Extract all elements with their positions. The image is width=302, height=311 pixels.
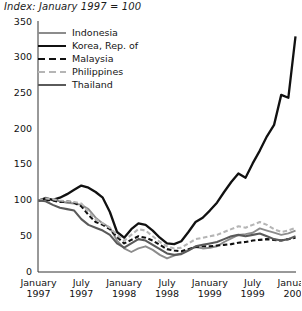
legend-swatch-philippines bbox=[38, 65, 66, 78]
chart-legend: IndonesiaKorea, Rep. ofMalaysiaPhilippin… bbox=[38, 26, 138, 91]
y-tick-label-150: 150 bbox=[2, 158, 32, 169]
legend-swatch-korea-rep-of bbox=[38, 39, 66, 52]
legend-item-thailand[interactable]: Thailand bbox=[38, 78, 138, 91]
x-tick-label-january-2000: January2000 bbox=[268, 277, 302, 299]
y-tick-label-200: 200 bbox=[2, 123, 32, 134]
y-tick-label-100: 100 bbox=[2, 194, 32, 205]
legend-swatch-malaysia bbox=[38, 52, 66, 65]
legend-label-thailand: Thailand bbox=[72, 79, 113, 90]
series-line-philippines bbox=[39, 198, 296, 248]
legend-swatch-indonesia bbox=[38, 26, 66, 39]
y-tick-label-350: 350 bbox=[2, 16, 32, 27]
legend-item-korea-rep-of[interactable]: Korea, Rep. of bbox=[38, 39, 138, 52]
y-tick-label-250: 250 bbox=[2, 87, 32, 98]
legend-swatch-thailand bbox=[38, 78, 66, 91]
legend-item-philippines[interactable]: Philippines bbox=[38, 65, 138, 78]
legend-label-philippines: Philippines bbox=[72, 66, 123, 77]
y-tick-label-50: 50 bbox=[2, 230, 32, 241]
x-tick-year: 2000 bbox=[268, 288, 302, 299]
y-tick-label-300: 300 bbox=[2, 51, 32, 62]
y-tick-label-0: 0 bbox=[2, 266, 32, 277]
legend-label-korea-rep-of: Korea, Rep. of bbox=[72, 40, 138, 51]
chart-figure: Index: January 1997 = 100 05010015020025… bbox=[0, 0, 301, 311]
legend-item-malaysia[interactable]: Malaysia bbox=[38, 52, 138, 65]
legend-label-malaysia: Malaysia bbox=[72, 53, 114, 64]
x-tick-month: January bbox=[268, 277, 302, 288]
legend-item-indonesia[interactable]: Indonesia bbox=[38, 26, 138, 39]
legend-label-indonesia: Indonesia bbox=[72, 27, 118, 38]
